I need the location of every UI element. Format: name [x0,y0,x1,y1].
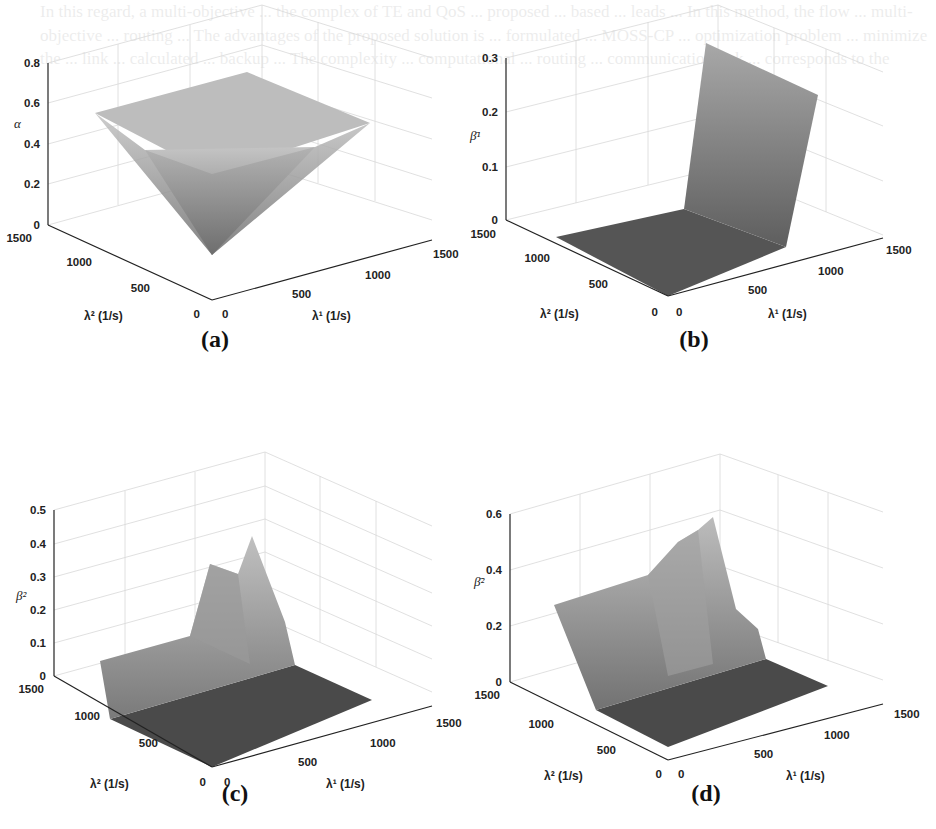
svg-text:1000: 1000 [74,710,100,722]
svg-text:λ² (1/s): λ² (1/s) [540,307,579,321]
svg-text:1500: 1500 [474,689,500,701]
svg-text:0: 0 [40,670,46,682]
svg-text:λ² (1/s): λ² (1/s) [90,777,129,791]
svg-text:0: 0 [492,214,498,226]
svg-text:0: 0 [34,219,40,231]
svg-text:500: 500 [754,748,773,760]
svg-text:1500: 1500 [18,683,44,695]
svg-text:1000: 1000 [824,729,850,741]
svg-text:λ¹ (1/s): λ¹ (1/s) [768,307,807,321]
svg-text:λ² (1/s): λ² (1/s) [84,309,123,323]
svg-text:500: 500 [298,756,317,768]
caption-a: (a) [185,326,245,353]
svg-text:β̄²: β̄² [473,574,485,589]
svg-text:0.1: 0.1 [30,637,47,649]
svg-text:1500: 1500 [6,232,32,244]
svg-text:500: 500 [748,284,767,296]
svg-text:0.4: 0.4 [30,538,47,550]
svg-text:0.2: 0.2 [482,106,498,118]
svg-text:500: 500 [131,282,150,294]
svg-text:1000: 1000 [524,252,550,264]
svg-text:0.2: 0.2 [30,604,46,616]
svg-text:0: 0 [678,768,684,780]
svg-text:0.1: 0.1 [482,161,499,173]
svg-text:β²: β² [15,588,27,603]
svg-text:1500: 1500 [886,244,912,256]
svg-text:α: α [14,116,22,131]
svg-text:1500: 1500 [433,248,459,260]
caption-c: (c) [205,780,265,807]
svg-text:0.6: 0.6 [24,97,40,109]
svg-text:0.3: 0.3 [482,52,498,64]
svg-text:0.4: 0.4 [486,564,503,576]
svg-text:0.6: 0.6 [486,508,502,520]
svg-text:0: 0 [194,308,200,320]
svg-text:500: 500 [597,744,616,756]
svg-text:0.3: 0.3 [30,571,46,583]
svg-text:1000: 1000 [818,265,844,277]
svg-text:λ² (1/s): λ² (1/s) [544,769,583,783]
svg-text:λ¹ (1/s): λ¹ (1/s) [326,777,365,791]
caption-d: (d) [676,780,736,807]
svg-text:0.8: 0.8 [24,57,41,69]
svg-text:0: 0 [222,308,228,320]
caption-b: (b) [664,326,724,353]
panel-a: 0.8 0.6 0.4 0.2 0 α 1500 1000 500 0 0 50… [0,0,468,414]
svg-text:1000: 1000 [365,269,391,281]
svg-text:1000: 1000 [528,718,554,730]
svg-text:0.4: 0.4 [24,138,41,150]
svg-text:500: 500 [139,737,158,749]
svg-text:500: 500 [292,288,311,300]
svg-text:0: 0 [496,676,502,688]
svg-text:0: 0 [656,768,662,780]
panel-d: 0.6 0.4 0.2 0 β̄² 1500 1000 500 0 0 500 … [468,414,936,828]
svg-text:1000: 1000 [66,256,92,268]
svg-text:0.2: 0.2 [24,178,40,190]
surface-plot-c: 0.5 0.4 0.3 0.2 0.1 0 β² 1500 1000 500 0… [0,414,468,829]
svg-text:1500: 1500 [894,708,920,720]
svg-text:0: 0 [676,306,682,318]
surface-plot-d: 0.6 0.4 0.2 0 β̄² 1500 1000 500 0 0 500 … [468,414,936,829]
svg-text:1500: 1500 [470,228,496,240]
svg-text:λ¹ (1/s): λ¹ (1/s) [312,309,351,323]
svg-text:0.5: 0.5 [30,504,47,516]
panel-c: 0.5 0.4 0.3 0.2 0.1 0 β² 1500 1000 500 0… [0,414,468,828]
svg-text:500: 500 [589,278,608,290]
svg-text:1000: 1000 [370,737,396,749]
svg-text:1500: 1500 [436,717,462,729]
svg-text:0.2: 0.2 [486,620,502,632]
svg-text:λ¹ (1/s): λ¹ (1/s) [786,769,825,783]
svg-text:0: 0 [652,306,658,318]
svg-text:β̄¹: β̄¹ [469,128,480,143]
panel-b: 0.3 0.2 0.1 0 β̄¹ 1500 1000 500 0 0 500 … [468,0,936,414]
